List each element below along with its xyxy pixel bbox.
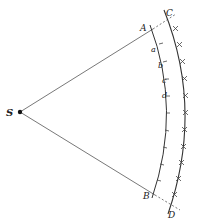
label-S: S xyxy=(6,107,13,118)
ray-SA xyxy=(20,29,153,112)
label-b: b xyxy=(158,61,163,70)
label-d: d xyxy=(162,91,167,100)
label-a: a xyxy=(151,45,156,54)
outer-arc xyxy=(164,10,185,214)
ray-SB xyxy=(20,112,155,195)
label-B: B xyxy=(142,191,150,201)
point-S xyxy=(18,110,22,114)
label-A: A xyxy=(139,23,147,33)
label-D: D xyxy=(167,210,175,220)
sector-diagram: S A C B D a b c d xyxy=(0,0,200,220)
ray-BD-dashed xyxy=(155,195,180,210)
label-C: C xyxy=(166,8,173,18)
label-c: c xyxy=(162,76,167,85)
